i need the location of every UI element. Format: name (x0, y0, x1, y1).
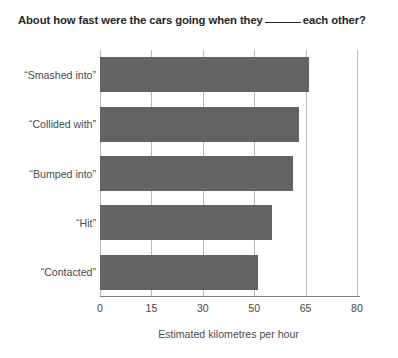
category-label-4: “Hit” (4, 217, 96, 229)
bar-fill (100, 255, 258, 290)
blank-line (265, 22, 301, 23)
x-tick-label-50: 50 (248, 302, 260, 314)
category-axis-labels: “Smashed into”“Collided with”“Bumped int… (0, 50, 96, 297)
bar-5 (100, 255, 258, 290)
chart-title: About how fast were the cars going when … (18, 14, 390, 26)
bar-chart: About how fast were the cars going when … (0, 0, 398, 358)
bar-fill (100, 156, 293, 191)
bar-1 (100, 57, 309, 92)
bar-4 (100, 205, 272, 240)
plot-area (100, 50, 357, 297)
bar-fill (100, 205, 272, 240)
x-axis-line (100, 296, 360, 297)
chart-title-before-blank: About how fast were the cars going when … (18, 14, 263, 26)
category-label-3: “Bumped into” (4, 168, 96, 180)
category-label-2: “Collided with” (4, 118, 96, 130)
bar-3 (100, 156, 293, 191)
bar-2 (100, 107, 299, 142)
x-tick-label-65: 65 (300, 302, 312, 314)
x-tick-label-15: 15 (145, 302, 157, 314)
category-label-1: “Smashed into” (4, 69, 96, 81)
x-tick-label-0: 0 (97, 302, 103, 314)
x-tick-label-80: 80 (351, 302, 363, 314)
x-axis-title: Estimated kilometres per hour (100, 328, 357, 340)
gridline-80 (357, 50, 358, 297)
chart-title-after-blank: each other? (303, 14, 366, 26)
x-tick-label-30: 30 (197, 302, 209, 314)
category-label-5: “Contacted” (4, 266, 96, 278)
bar-fill (100, 57, 309, 92)
bar-fill (100, 107, 299, 142)
